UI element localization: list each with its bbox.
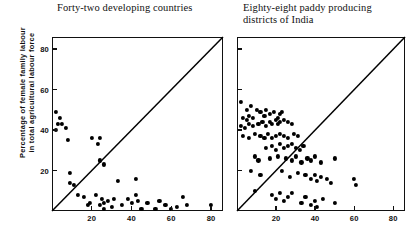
x-axis-tick	[354, 206, 355, 211]
y-axis-tick-label: 40	[40, 126, 49, 135]
x-axis-tick	[171, 206, 172, 211]
y-axis-tick	[52, 170, 57, 171]
panel-right-title-line2: districts of India	[243, 14, 408, 26]
y-axis-tick	[237, 89, 242, 90]
x-axis-tick-label: 80	[207, 214, 216, 223]
panel-right-title-line1: Eighty-eight paddy producing	[243, 2, 408, 14]
x-axis-tick-label: 20	[272, 214, 281, 223]
scatter-panel-left	[52, 37, 223, 211]
identity-reference-line-right	[237, 37, 405, 211]
x-axis-tick	[91, 206, 92, 211]
y-axis-tick	[52, 89, 57, 90]
identity-reference-line-left	[52, 37, 223, 211]
scatter-panel-right	[237, 37, 405, 211]
panel-left-title: Forty-two developing countries	[57, 2, 227, 14]
x-axis-tick	[131, 206, 132, 211]
x-axis-tick-label: 20	[87, 214, 96, 223]
y-axis-tick-label: 80	[40, 45, 49, 54]
y-axis-label-line2: in total agricultural labour force	[28, 13, 37, 173]
x-axis-tick-label: 60	[167, 214, 176, 223]
figure-canvas: Forty-two developing countries Eighty-ei…	[0, 0, 417, 233]
y-axis-tick-label: 20	[40, 166, 49, 175]
y-axis-tick	[237, 129, 242, 130]
x-axis-tick-label: 80	[389, 214, 398, 223]
y-axis-tick	[237, 170, 242, 171]
y-axis-tick-label: 60	[40, 85, 49, 94]
x-axis-tick-label: 40	[311, 214, 320, 223]
y-axis-tick	[237, 48, 242, 49]
x-axis-tick	[393, 206, 394, 211]
x-axis-tick-label: 60	[350, 214, 359, 223]
panel-right-title: Eighty-eight paddy producing districts o…	[243, 2, 408, 25]
x-axis-tick	[314, 206, 315, 211]
y-axis-label: Percentage of female family labour in to…	[19, 13, 36, 173]
x-axis-tick-label: 40	[127, 214, 136, 223]
y-axis-tick	[52, 48, 57, 49]
x-axis-tick	[275, 206, 276, 211]
y-axis-tick	[52, 129, 57, 130]
x-axis-tick	[210, 206, 211, 211]
